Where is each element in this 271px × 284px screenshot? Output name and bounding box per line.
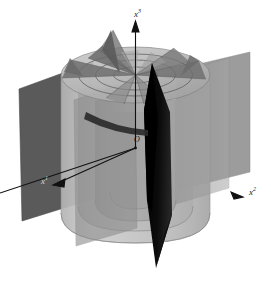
origin-label: O xyxy=(134,136,140,144)
axis-x3-arrowhead xyxy=(132,21,139,32)
axis-x2-arrowhead xyxy=(231,192,243,199)
axis-label-x2: x2 xyxy=(249,188,256,197)
axis-label-x3: x3 xyxy=(134,10,141,19)
mid-vertical-plane xyxy=(74,80,137,246)
axis-label-x1: x1 xyxy=(41,177,48,186)
figure-canvas: x3 x2 x1 O xyxy=(0,0,271,284)
origin-point xyxy=(134,147,137,150)
